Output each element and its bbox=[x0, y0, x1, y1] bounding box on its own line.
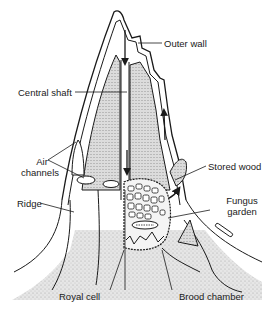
label-fungus-garden-2: garden bbox=[224, 206, 260, 217]
air-channel-oval-2 bbox=[103, 181, 119, 188]
label-air-channels-1: Air bbox=[27, 156, 57, 167]
label-fungus-garden-1: Fungus bbox=[224, 195, 260, 206]
left-air-tube bbox=[72, 140, 84, 175]
label-ridge: Ridge bbox=[17, 198, 42, 209]
label-stored-wood: Stored wood bbox=[208, 161, 261, 172]
ridge-outline-left bbox=[14, 200, 62, 272]
label-central-shaft: Central shaft bbox=[18, 87, 72, 98]
label-brood-chamber: Brood chamber bbox=[179, 291, 244, 302]
air-channel-oval-1 bbox=[77, 176, 95, 184]
interior-left-lobe bbox=[82, 55, 120, 190]
airflow-arrow-right-up bbox=[164, 112, 165, 140]
label-outer-wall: Outer wall bbox=[164, 38, 207, 49]
label-air-channels-2: channels bbox=[18, 167, 62, 178]
termite-mound-diagram: Outer wall Central shaft Air channels Ri… bbox=[0, 0, 273, 313]
label-royal-cell: Royal cell bbox=[59, 291, 100, 302]
stored-wood-pocket bbox=[170, 159, 187, 186]
